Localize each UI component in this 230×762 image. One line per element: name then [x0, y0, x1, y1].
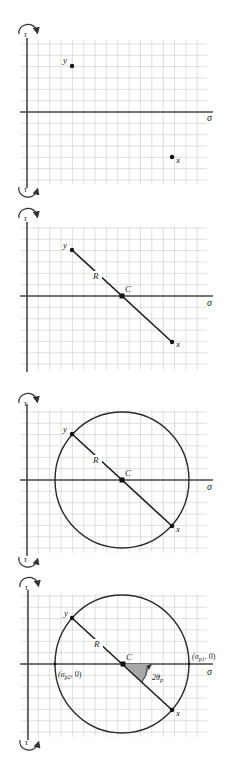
radius-label: R [92, 455, 99, 465]
cw-rotation-arrow-icon [19, 557, 37, 567]
center-point [120, 478, 125, 483]
point-y [70, 248, 74, 252]
point-y-label: y [62, 424, 67, 434]
cw-rotation-arrow-icon [20, 740, 38, 750]
tau-label-top: τ [24, 214, 28, 223]
mohr-circle-figure: τ τ σ y x τ σ R y x C τ τ σ [0, 0, 230, 762]
cw-rotation-arrow-icon [19, 187, 37, 197]
point-y-label: y [62, 240, 67, 250]
panel-step-4: τ τ σ R y x C (σp2, 0) (σp1, 0) 2θp [20, 577, 216, 750]
sigma-label: σ [207, 112, 213, 123]
center-label: C [126, 652, 133, 662]
panel-step-2: τ σ R y x C [19, 208, 213, 372]
sigma-label: σ [207, 297, 213, 308]
panel-step-3: τ τ σ R y x C [19, 393, 213, 567]
angle-label: 2θp [152, 673, 163, 683]
sigma-label: σ [207, 666, 213, 677]
point-x-label: x [175, 708, 180, 718]
point-y [70, 616, 74, 620]
panel-step-1: τ τ σ y x [19, 24, 213, 197]
angle-wedge [123, 664, 149, 682]
center-point [121, 662, 126, 667]
ccw-rotation-arrow-icon [19, 208, 37, 218]
point-y-label: y [62, 55, 67, 65]
point-x [170, 340, 174, 344]
center-point [120, 294, 125, 299]
principal-2-label: (σp2, 0) [58, 670, 82, 680]
tau-label-top: τ [24, 30, 28, 39]
point-y-label: y [63, 608, 68, 618]
radius-label: R [92, 271, 99, 281]
point-x-label: x [175, 155, 180, 165]
point-x-label: x [175, 524, 180, 534]
point-y [70, 64, 74, 68]
principal-point-2 [54, 663, 57, 666]
principal-1-label: (σp1, 0) [192, 652, 216, 662]
sigma-label: σ [207, 481, 213, 492]
ccw-rotation-arrow-icon [19, 393, 37, 403]
center-label: C [125, 284, 132, 294]
center-label: C [125, 468, 132, 478]
point-x [170, 524, 174, 528]
tau-label-bottom: τ [24, 555, 28, 564]
point-y [70, 432, 74, 436]
principal-point-1 [188, 663, 191, 666]
ccw-rotation-arrow-icon [19, 24, 37, 34]
point-x-label: x [175, 339, 180, 349]
ccw-rotation-arrow-icon [20, 577, 38, 587]
point-x [170, 708, 174, 712]
point-x [170, 155, 174, 159]
radius-label: R [93, 639, 100, 649]
